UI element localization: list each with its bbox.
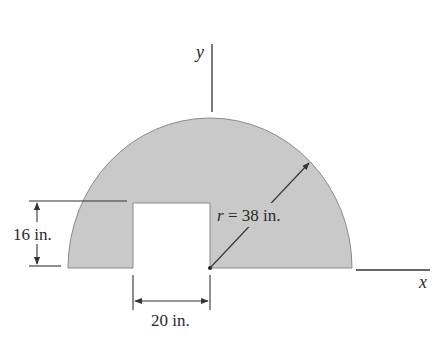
- width-label: 20 in.: [151, 311, 190, 330]
- y-axis-label: y: [194, 42, 204, 62]
- height-label: 16 in.: [13, 225, 52, 244]
- diagram-canvas: y x r = 38 in. 16 in. 20 in.: [0, 0, 443, 340]
- shaded-area: [68, 118, 352, 268]
- radius-label: r = 38 in.: [217, 206, 280, 225]
- x-axis-label: x: [418, 272, 427, 292]
